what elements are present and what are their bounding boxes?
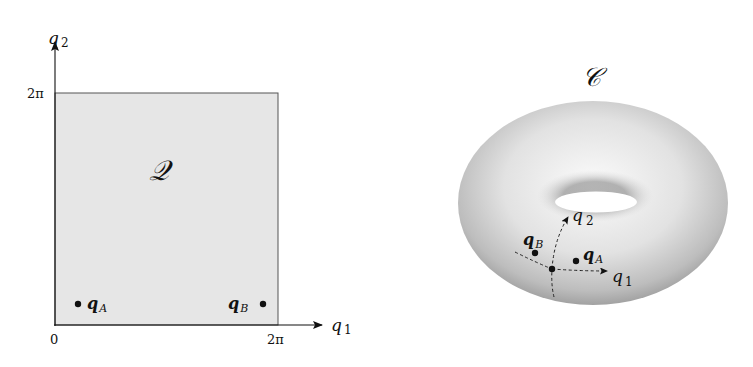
point-qB	[260, 301, 266, 307]
q2-tick-2pi: 2π	[27, 86, 44, 101]
q2-axis-label: q2	[48, 28, 69, 50]
torus-panel: 𝒞 qB qA q2 q1	[458, 62, 728, 305]
c-space-label: 𝒞	[582, 62, 608, 92]
point-qA	[75, 301, 81, 307]
configuration-space-region	[55, 93, 278, 325]
origin-tick-0: 0	[50, 332, 58, 347]
origin-point	[549, 266, 555, 272]
torus-point-qA	[573, 258, 579, 264]
figure: q2 q1 2π 0 2π 𝒬 qA qB 𝒞 qB qA q2 q1	[0, 0, 753, 367]
configuration-space-square-panel: q2 q1 2π 0 2π 𝒬 qA qB	[27, 28, 352, 347]
q1-axis-label: q1	[331, 315, 352, 337]
torus-hole	[555, 192, 637, 213]
q1-tick-2pi: 2π	[267, 332, 284, 347]
